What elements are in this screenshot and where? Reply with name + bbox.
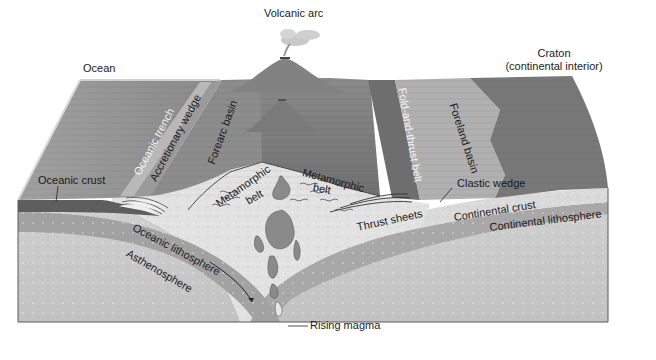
label-rising-magma: Rising magma (310, 320, 380, 331)
label-craton: Craton (continental interior) (494, 48, 614, 72)
subduction-zone-diagram: Volcanic arc Ocean Craton (continental i… (0, 0, 656, 360)
label-volcanic-arc: Volcanic arc (264, 8, 323, 19)
label-oceanic-crust: Oceanic crust (38, 175, 105, 186)
volcano-main (230, 58, 345, 92)
label-craton-line1: Craton (494, 48, 614, 59)
label-craton-line2: (continental interior) (494, 61, 614, 72)
ash-plume (280, 29, 320, 56)
label-clastic-wedge: Clastic wedge (457, 178, 525, 189)
label-ocean: Ocean (83, 63, 115, 74)
